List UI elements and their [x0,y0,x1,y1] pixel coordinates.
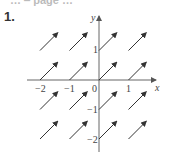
direction-arrow [70,121,88,139]
origin-label: 0 [92,83,97,94]
direction-arrow [40,62,58,80]
direction-arrow [40,121,58,139]
y-axis-label: y [90,12,96,23]
direction-arrow [40,33,58,51]
y-tick-label: 1 [93,44,98,55]
x-axis-label: x [154,82,160,93]
direction-arrow [129,92,147,110]
x-tick-label: −2 [35,83,46,94]
direction-field-plot: x y −2 −1 0 1 1 −1 −2 [0,0,171,155]
direction-arrow [70,62,88,80]
direction-arrow [129,121,147,139]
y-tick-label: −2 [87,134,98,145]
y-axis: y [90,12,99,152]
y-tick-label: −1 [87,104,98,115]
direction-arrow [99,92,117,110]
direction-arrow [70,33,88,51]
direction-arrow [129,62,147,80]
direction-arrow [99,33,117,51]
direction-arrow [129,33,147,51]
direction-arrow [99,62,117,80]
direction-arrow [40,92,58,110]
x-tick-label: −1 [64,83,75,94]
direction-arrow [99,121,117,139]
direction-arrow [70,92,88,110]
x-tick-label: 1 [126,83,131,94]
